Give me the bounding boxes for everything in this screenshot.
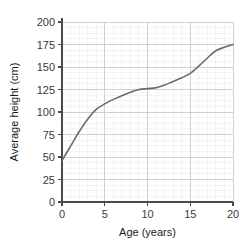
- y-tick-label: 75: [43, 129, 55, 141]
- y-tick-label: 125: [37, 84, 55, 96]
- x-tick-label: 20: [227, 208, 239, 220]
- x-axis-title: Age (years): [119, 226, 176, 238]
- y-tick-label: 150: [37, 61, 55, 73]
- y-tick-label: 50: [43, 151, 55, 163]
- x-tick-label: 0: [59, 208, 65, 220]
- y-tick-labels: 0255075100125150175200: [37, 16, 55, 208]
- y-axis-title: Average height (cm): [8, 63, 20, 162]
- x-tick-labels: 05101520: [59, 208, 239, 220]
- x-tick-label: 5: [102, 208, 108, 220]
- chart-figure: 0255075100125150175200 05101520 Age (yea…: [0, 0, 248, 246]
- y-tick-label: 100: [37, 106, 55, 118]
- growth-chart-plot: 0255075100125150175200 05101520 Age (yea…: [0, 0, 248, 246]
- y-tick-label: 175: [37, 39, 55, 51]
- y-tick-label: 0: [49, 196, 55, 208]
- y-tick-label: 25: [43, 174, 55, 186]
- y-tick-label: 200: [37, 16, 55, 28]
- x-tick-label: 15: [184, 208, 196, 220]
- x-tick-label: 10: [141, 208, 153, 220]
